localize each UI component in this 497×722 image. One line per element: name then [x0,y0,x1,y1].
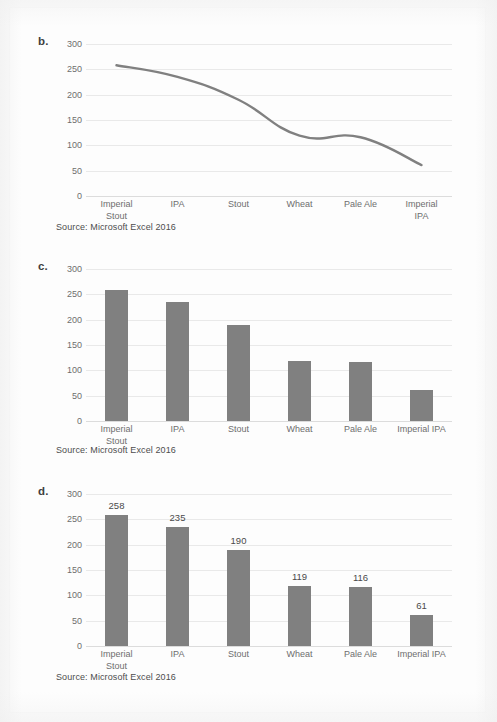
x-axis-tick-label-line: IPA [396,210,448,222]
bar-data-label: 258 [109,500,125,511]
x-axis-tick-label-line: Stout [91,210,143,222]
x-axis-tick-label: IPA [171,198,185,210]
x-axis-tick-label-line: Wheat [286,423,312,435]
figure-c: c. 300250200150100500 ImperialStoutIPASt… [0,255,497,460]
chart-b-plot-area: 300250200150100500 [52,44,452,196]
bar [349,362,372,421]
x-axis-tick-label: Wheat [286,648,312,660]
gridline [86,519,452,520]
source-caption-b: Source: Microsoft Excel 2016 [56,222,176,232]
x-axis-tick-label-line: Wheat [286,648,312,660]
x-axis-tick-label-line: IPA [171,423,185,435]
figure-b: b. 300250200150100500 ImperialStoutIPASt… [0,30,497,245]
x-axis-tick-label-line: IPA [171,648,185,660]
scanned-page: b. 300250200150100500 ImperialStoutIPASt… [0,0,497,722]
bar [288,361,311,421]
x-axis-tick-label: Imperial IPA [397,423,445,435]
y-axis-tick-label: 200 [67,90,82,100]
y-axis-tick-label: 50 [72,166,82,176]
y-axis-tick-label: 100 [67,140,82,150]
y-axis-tick-label: 250 [67,64,82,74]
x-axis-tick-label: Stout [228,423,249,435]
x-axis-tick-label: IPA [171,648,185,660]
bar [227,550,250,646]
x-axis-tick-label-line: Stout [228,648,249,660]
y-axis-tick-label: 0 [77,416,82,426]
x-axis-tick-label: ImperialStout [91,423,143,447]
x-axis-tick-label-line: Pale Ale [344,423,377,435]
x-axis-tick-label-line: Imperial IPA [397,423,445,435]
figure-d: d. 30025020015010050025823519011911661 I… [0,480,497,695]
bar [410,390,433,421]
y-axis-tick-label: 150 [67,565,82,575]
gridline [86,345,452,346]
panel-label-c: c. [38,260,48,272]
x-axis-tick-label-line: Stout [228,198,249,210]
x-axis-tick-label: Pale Ale [344,198,377,210]
bar [288,586,311,646]
x-axis-tick-label: ImperialIPA [396,198,448,222]
bar-data-label: 116 [353,572,368,583]
gridline [86,545,452,546]
y-axis-tick-labels: 300250200150100500 [52,494,86,646]
x-axis-tick-label: ImperialStout [91,648,143,672]
panel-label-b: b. [38,35,49,47]
bar [166,302,189,421]
x-axis-tick-label-line: Pale Ale [344,198,377,210]
x-axis-tick-label-line: Stout [91,660,143,672]
y-axis-tick-label: 250 [67,514,82,524]
chart-d-plot-area: 30025020015010050025823519011911661 [52,494,452,646]
gridline [86,370,452,371]
x-axis-tick-label-line: Pale Ale [344,648,377,660]
y-axis-tick-label: 50 [72,616,82,626]
gridline [86,646,452,647]
gridline [86,196,452,197]
y-axis-tick-label: 200 [67,540,82,550]
y-axis-tick-label: 300 [67,39,82,49]
bar [410,615,433,646]
y-axis-tick-label: 250 [67,289,82,299]
x-axis-tick-label: Wheat [286,198,312,210]
x-axis-tick-label-line: Imperial [91,198,143,210]
x-axis-tick-label: Pale Ale [344,648,377,660]
bar [105,515,128,646]
x-axis-tick-label-line: IPA [171,198,185,210]
bar-data-label: 61 [416,600,427,611]
x-axis-tick-label-line: Imperial [91,423,143,435]
x-axis-tick-label: Imperial IPA [397,648,445,660]
x-axis-tick-label: IPA [171,423,185,435]
panel-label-d: d. [38,485,49,497]
x-axis-tick-label-line: Imperial [396,198,448,210]
x-axis-tick-label-line: Wheat [286,198,312,210]
bar [349,587,372,646]
plot-canvas [86,269,452,421]
chart-c-plot-area: 300250200150100500 [52,269,452,421]
bar [105,290,128,421]
x-axis-tick-label-line: Imperial IPA [397,648,445,660]
y-axis-tick-label: 150 [67,115,82,125]
x-axis-tick-label: Stout [228,648,249,660]
x-axis-tick-label-line: Stout [228,423,249,435]
y-axis-tick-label: 100 [67,365,82,375]
x-axis-tick-label: Stout [228,198,249,210]
y-axis-tick-label: 50 [72,391,82,401]
gridline [86,320,452,321]
bar [227,325,250,421]
y-axis-tick-label: 0 [77,641,82,651]
y-axis-tick-labels: 300250200150100500 [52,269,86,421]
x-axis-tick-label-line: Imperial [91,648,143,660]
bar-data-label: 190 [231,535,247,546]
line-series [86,44,452,196]
gridline [86,269,452,270]
gridline [86,595,452,596]
y-axis-tick-label: 200 [67,315,82,325]
gridline [86,494,452,495]
bar-data-label: 235 [170,512,186,523]
y-axis-tick-label: 150 [67,340,82,350]
y-axis-tick-label: 100 [67,590,82,600]
y-axis-tick-label: 300 [67,264,82,274]
gridline [86,421,452,422]
plot-canvas: 25823519011911661 [86,494,452,646]
gridline [86,396,452,397]
y-axis-tick-labels: 300250200150100500 [52,44,86,196]
